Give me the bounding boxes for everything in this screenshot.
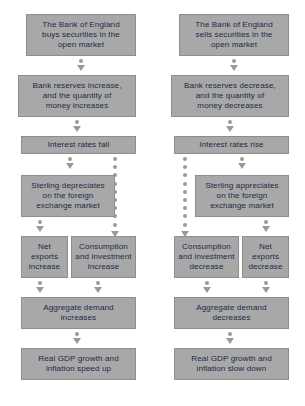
flowchart-column-expansionary: The Bank of England buys securities in t… [0,0,152,406]
node-boe-buys-securities: The Bank of England buys securities in t… [26,14,136,56]
node-net-exports-decrease: Net exports decrease [242,236,289,278]
connector-dot [183,190,187,194]
node-line: and the quantity of [22,91,132,101]
node-line: Bank reserves decrease, [175,81,285,91]
connector-dot [113,165,117,169]
arrow-down-icon [226,126,234,132]
connector-dot [183,182,187,186]
connector-dot [183,165,187,169]
connector-arrow [75,59,87,71]
connector-dot [96,281,100,285]
node-line: The Bank of England [183,20,285,30]
flowchart-column-contractionary: The Bank of England sells securities in … [152,0,304,406]
node-line: Real GDP growth and [178,354,285,364]
node-line: Aggregate demand [25,303,132,313]
node-consumption-investment-increase: Consumption and investment increase [71,236,136,278]
node-line: on the foreign [199,191,285,201]
node-line: and investment [178,252,235,262]
arrow-down-icon [73,338,81,344]
arrow-down-icon [238,163,246,169]
node-line: increases [25,313,132,323]
arrow-down-icon [230,65,238,71]
connector-arrow [34,220,46,232]
connector-dot [113,223,117,227]
node-net-exports-increase: Net exports increase [21,236,68,278]
node-interest-rates-rise: Interest rates rise [174,136,289,154]
node-line: money increases [22,101,132,111]
connector-dot [183,198,187,202]
node-line: Consumption [75,242,132,252]
node-interest-rates-fall: Interest rates fall [21,136,136,154]
node-line: Net [25,242,64,252]
arrow-down-icon [262,287,270,293]
node-bank-reserves-increase: Bank reserves increase, and the quantity… [18,75,136,117]
arrow-down-icon [36,226,44,232]
connector-dot [68,157,72,161]
connector-arrow [201,281,213,293]
node-line: buys securities in the [30,30,132,40]
connector-arrow [260,220,272,232]
node-line: sells securities in the [183,30,285,40]
node-sterling-depreciates: Sterling depreciates on the foreign exch… [21,175,115,217]
node-line: on the foreign [25,191,111,201]
connector-dot [75,332,79,336]
connector-dot [38,281,42,285]
node-line: exchange market [199,201,285,211]
node-line: Sterling appreciates [199,181,285,191]
node-line: exports [246,252,285,262]
node-aggregate-demand-decreases: Aggregate demand decreases [174,297,289,329]
connector-arrow [224,120,236,132]
node-line: Bank reserves increase, [22,81,132,91]
connector-arrow [71,332,83,344]
node-line: Net [246,242,285,252]
node-sterling-appreciates: Sterling appreciates on the foreign exch… [195,175,289,217]
connector-dot [183,157,187,161]
node-line: and investment [75,252,132,262]
node-line: decrease [178,262,235,272]
connector-dot [183,173,187,177]
connector-dot [232,59,236,63]
connector-arrow [92,281,104,293]
node-line: Real GDP growth and [25,354,132,364]
connector-dot [228,332,232,336]
connector-dot [38,220,42,224]
node-line: decrease [246,262,285,272]
node-aggregate-demand-increases: Aggregate demand increases [21,297,136,329]
node-line: exports [25,252,64,262]
arrow-down-icon [66,163,74,169]
arrow-down-icon [36,287,44,293]
connector-dot [113,157,117,161]
connector-dot [183,214,187,218]
connector-dot [264,220,268,224]
connector-dot [75,120,79,124]
arrow-down-icon [203,287,211,293]
node-boe-sells-securities: The Bank of England sells securities in … [179,14,289,56]
node-line: inflation speed up [25,364,132,374]
connector-arrow [228,59,240,71]
node-line: Sterling depreciates [25,181,111,191]
node-line: inflation slow down [178,364,285,374]
arrow-down-icon [94,287,102,293]
node-consumption-investment-decrease: Consumption and investment decrease [174,236,239,278]
connector-dot [183,206,187,210]
node-line: increase [25,262,64,272]
connector-arrow [64,157,76,169]
connector-arrow [34,281,46,293]
branch-dotted-line [179,157,191,237]
monetary-policy-flowchart: The Bank of England buys securities in t… [0,0,305,406]
connector-arrow [236,157,248,169]
connector-dot [79,59,83,63]
connector-arrow [224,332,236,344]
arrow-down-icon [226,338,234,344]
connector-dot [183,223,187,227]
arrow-down-icon [262,226,270,232]
node-line: The Bank of England [30,20,132,30]
connector-arrow [71,120,83,132]
arrow-down-icon [77,65,85,71]
connector-arrow [260,281,272,293]
arrow-down-icon [73,126,81,132]
node-line: Interest rates fall [25,140,132,150]
node-line: decreases [178,313,285,323]
node-bank-reserves-decrease: Bank reserves decrease, and the quantity… [171,75,289,117]
node-line: exchange market [25,201,111,211]
